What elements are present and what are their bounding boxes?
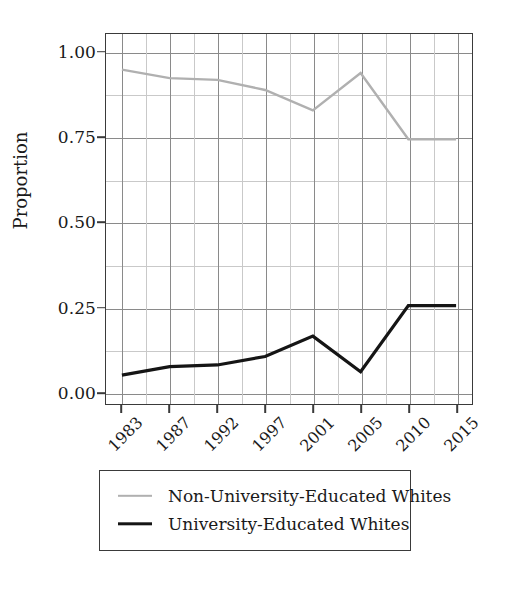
x-tick-label: 1987 xyxy=(152,413,194,455)
y-axis-tick-marks xyxy=(97,33,105,405)
x-tick-mark xyxy=(216,405,218,413)
series-layer xyxy=(106,34,472,404)
chart-legend: Non-University-Educated WhitesUniversity… xyxy=(99,470,411,551)
y-tick-mark xyxy=(97,136,105,138)
x-tick-mark xyxy=(120,405,122,413)
plot-area xyxy=(105,33,473,405)
line-chart-figure: Proportion 0.000.250.500.751.00 19831987… xyxy=(0,0,506,594)
x-tick-mark xyxy=(168,405,170,413)
y-tick-mark xyxy=(97,222,105,224)
y-tick-mark xyxy=(97,307,105,309)
y-tick-label: 0.75 xyxy=(34,127,96,147)
legend-line-swatch-icon xyxy=(118,517,152,531)
y-tick-mark xyxy=(97,392,105,394)
x-tick-mark xyxy=(408,405,410,413)
legend-item: University-Educated Whites xyxy=(100,510,410,538)
x-tick-mark xyxy=(312,405,314,413)
legend-line-swatch-icon xyxy=(118,489,152,503)
series-line-2 xyxy=(122,306,456,376)
y-tick-mark xyxy=(97,51,105,53)
y-tick-label: 0.00 xyxy=(34,383,96,403)
x-tick-mark xyxy=(360,405,362,413)
legend-item-label: Non-University-Educated Whites xyxy=(168,486,451,506)
legend-item: Non-University-Educated Whites xyxy=(100,482,410,510)
x-tick-mark xyxy=(264,405,266,413)
x-tick-mark xyxy=(456,405,458,413)
x-tick-label: 2010 xyxy=(392,413,434,455)
x-tick-label: 2001 xyxy=(296,413,338,455)
x-axis-tick-labels: 19831987199219972001200520102015 xyxy=(105,413,473,473)
x-tick-label: 1992 xyxy=(200,413,242,455)
x-tick-label: 1997 xyxy=(248,413,290,455)
x-tick-label: 1983 xyxy=(104,413,146,455)
x-axis-tick-marks xyxy=(105,405,473,413)
y-tick-label: 0.25 xyxy=(34,298,96,318)
x-tick-label: 2005 xyxy=(344,413,386,455)
x-tick-label: 2015 xyxy=(440,413,482,455)
y-axis-tick-labels: 0.000.250.500.751.00 xyxy=(20,33,96,405)
series-line-1 xyxy=(122,70,456,140)
legend-item-label: University-Educated Whites xyxy=(168,514,409,534)
y-tick-label: 1.00 xyxy=(34,42,96,62)
y-tick-label: 0.50 xyxy=(34,212,96,232)
